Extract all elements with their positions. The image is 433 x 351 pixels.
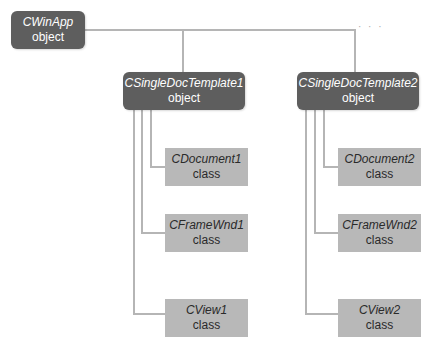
node-name: CView2 <box>338 303 421 318</box>
ellipsis: · · · <box>358 21 384 32</box>
node-name: CSingleDocTemplate1 <box>123 76 245 91</box>
document2-node: CDocument2 class <box>338 148 421 186</box>
connector-root-horizontal <box>84 29 356 31</box>
node-name: CSingleDocTemplate2 <box>297 76 419 91</box>
connector-template1-vertical <box>182 30 184 74</box>
node-kind: class <box>165 318 248 333</box>
connector-frame1-h <box>141 232 166 234</box>
view2-node: CView2 class <box>338 299 421 337</box>
node-name: CView1 <box>165 303 248 318</box>
node-name: CFrameWnd2 <box>338 218 421 233</box>
node-kind: object <box>123 91 245 106</box>
node-name: CFrameWnd1 <box>165 218 248 233</box>
template2-node: CSingleDocTemplate2 object <box>297 72 419 110</box>
connector-doc2 <box>323 108 325 167</box>
node-kind: class <box>338 233 421 248</box>
node-name: CWinApp <box>11 15 85 30</box>
connector-doc1 <box>150 108 152 167</box>
connector-view2-h <box>305 313 338 315</box>
node-kind: class <box>165 167 248 182</box>
node-kind: object <box>297 91 419 106</box>
node-kind: class <box>338 318 421 333</box>
view1-node: CView1 class <box>165 299 248 337</box>
connector-template2-vertical <box>354 30 356 74</box>
node-kind: object <box>11 30 85 45</box>
connector-frame2 <box>314 108 316 233</box>
node-name: CDocument2 <box>338 152 421 167</box>
framewnd2-node: CFrameWnd2 class <box>338 214 421 252</box>
connector-view2 <box>305 108 307 314</box>
template1-node: CSingleDocTemplate1 object <box>123 72 245 110</box>
node-kind: class <box>165 233 248 248</box>
node-kind: class <box>338 167 421 182</box>
connector-doc1-h <box>150 166 166 168</box>
connector-view1 <box>133 108 135 314</box>
connector-frame1 <box>141 108 143 233</box>
connector-doc2-h <box>323 166 338 168</box>
node-name: CDocument1 <box>165 152 248 167</box>
connector-frame2-h <box>314 232 338 234</box>
connector-view1-h <box>133 313 166 315</box>
cwinapp-node: CWinApp object <box>11 11 85 49</box>
framewnd1-node: CFrameWnd1 class <box>165 214 248 252</box>
document1-node: CDocument1 class <box>165 148 248 186</box>
